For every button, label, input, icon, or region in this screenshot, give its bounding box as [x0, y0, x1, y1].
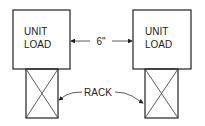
left-unit-load-label-line2: LOAD [24, 39, 51, 50]
rack-label: RACK [84, 87, 112, 98]
rack-leader-right [115, 92, 143, 103]
right-unit-load: UNIT LOAD [133, 10, 191, 69]
right-rack [145, 69, 178, 118]
rack-leader-left [59, 92, 82, 100]
left-rack [26, 69, 58, 118]
right-unit-load-label-line2: LOAD [145, 39, 172, 50]
left-unit-load: UNIT LOAD [13, 10, 70, 69]
unit-load-spacing-diagram: UNIT LOAD UNIT LOAD 6" RACK [0, 0, 205, 126]
spacing-label: 6" [96, 36, 106, 47]
rack-callout: RACK [59, 87, 143, 103]
spacing-dimension: 6" [71, 36, 132, 47]
left-unit-load-label-line1: UNIT [24, 26, 47, 37]
right-unit-load-label-line1: UNIT [145, 26, 168, 37]
